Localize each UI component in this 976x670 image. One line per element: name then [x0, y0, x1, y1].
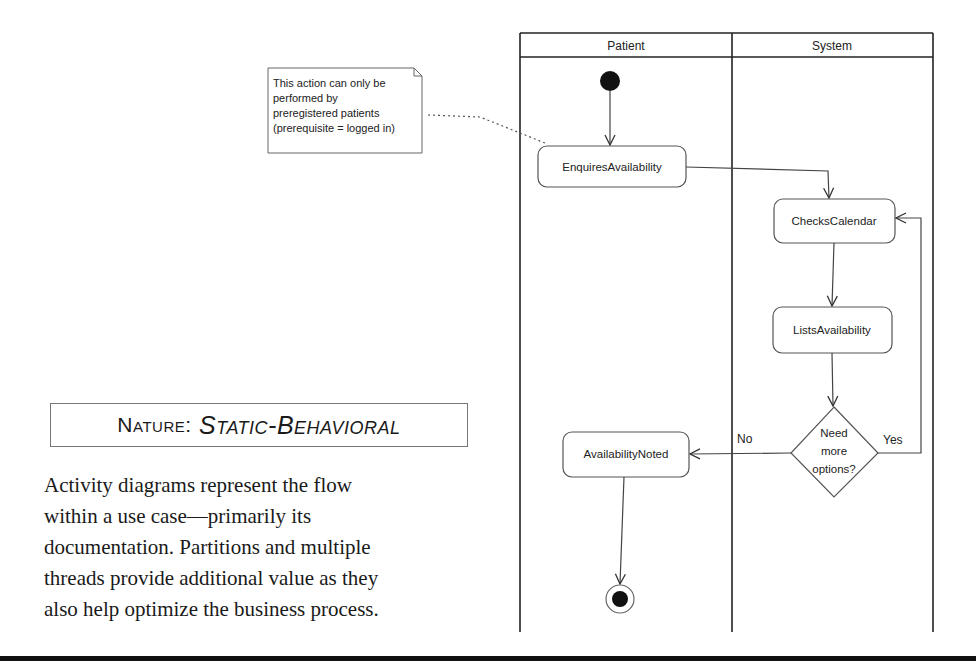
final-node	[606, 585, 634, 613]
edge-enquires-checks	[686, 167, 829, 198]
decision-need-more-options: Need more options?	[791, 407, 878, 497]
description-paragraph: Activity diagrams represent the flow wit…	[44, 470, 514, 625]
description-line: Activity diagrams represent the flow	[44, 470, 514, 501]
action-label: AvailabilityNoted	[584, 448, 669, 460]
action-label: ChecksCalendar	[791, 215, 876, 227]
action-enquires-availability: EnquiresAvailability	[538, 146, 686, 187]
note-line-1: This action can only be	[273, 77, 386, 89]
action-checks-calendar: ChecksCalendar	[774, 199, 895, 243]
decision-line-1: Need	[820, 427, 848, 439]
edge-lists-decision	[832, 353, 833, 406]
action-label: EnquiresAvailability	[562, 161, 662, 173]
nature-label-box: Nature : Static-Behavioral	[50, 403, 468, 447]
description-line: threads provide additional value as they	[44, 563, 514, 594]
page-bottom-rule	[0, 656, 976, 661]
action-label: ListsAvailability	[793, 324, 871, 336]
lane-title-patient: Patient	[607, 39, 645, 53]
note-line-4: (prerequisite = logged in)	[273, 122, 395, 134]
guard-no: No	[737, 432, 753, 446]
nature-separator: :	[185, 413, 191, 437]
description-line: also help optimize the business process.	[44, 594, 514, 625]
decision-line-3: options?	[812, 463, 855, 475]
description-line: within a use case—primarily its	[44, 501, 514, 532]
note-connector	[428, 115, 545, 143]
edge-noted-end	[620, 477, 624, 584]
edge-decision-noted-no	[690, 453, 791, 454]
nature-value: Static-Behavioral	[199, 411, 401, 440]
initial-node	[600, 71, 620, 91]
note-line-3: preregistered patients	[273, 107, 380, 119]
action-lists-availability: ListsAvailability	[773, 307, 892, 353]
note: This action can only be performed by pre…	[268, 68, 422, 153]
edge-checks-lists	[832, 243, 834, 306]
action-availability-noted: AvailabilityNoted	[563, 432, 689, 477]
decision-line-2: more	[821, 445, 847, 457]
description-line: documentation. Partitions and multiple	[44, 532, 514, 563]
note-line-2: performed by	[273, 92, 338, 104]
lane-title-system: System	[812, 39, 852, 53]
guard-yes: Yes	[883, 433, 903, 447]
nature-key: Nature	[117, 413, 185, 437]
